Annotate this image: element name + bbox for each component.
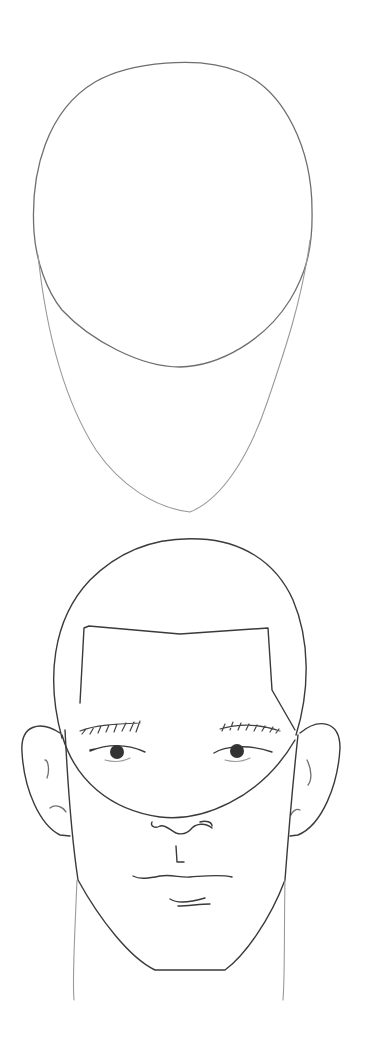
left-eye: [90, 745, 145, 761]
right-eyebrow: [220, 722, 280, 733]
neck-left: [73, 880, 77, 1000]
sketch-illustration: [0, 0, 386, 1039]
step-2-face: [22, 539, 340, 1000]
right-eye: [214, 744, 272, 761]
hairline: [80, 626, 295, 730]
cranium-circle: [33, 62, 312, 367]
left-ear-inner: [45, 760, 66, 812]
left-eyebrow: [80, 721, 140, 734]
neck-right: [283, 880, 285, 1000]
face-left-side: [65, 730, 298, 970]
left-ear: [22, 726, 70, 836]
construction-arc: [62, 735, 295, 818]
jaw-outline: [38, 240, 310, 512]
lower-lip: [170, 898, 210, 906]
step-1-construction: [33, 62, 312, 512]
philtrum: [176, 846, 184, 862]
mouth: [133, 875, 232, 878]
nose: [152, 821, 212, 834]
